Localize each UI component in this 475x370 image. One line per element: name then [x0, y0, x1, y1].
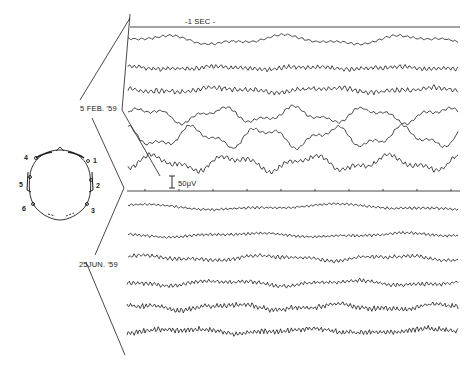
eeg-figure: -1 SEC - 5 FEB. '59 25JUN. '59 50μV 4 1 … [0, 0, 475, 370]
electrode-label-5: 5 [19, 181, 23, 188]
electrode-label-1: 1 [93, 157, 97, 164]
electrode-label-2: 2 [96, 182, 100, 189]
eeg-trace [128, 254, 458, 263]
eeg-trace [128, 153, 458, 174]
eeg-trace [128, 203, 458, 211]
eeg-trace [128, 85, 458, 96]
timing-label: -1 SEC - [185, 17, 215, 26]
date-label-group-1: 5 FEB. '59 [80, 104, 117, 113]
eeg-trace [128, 124, 458, 150]
head-diagram [27, 147, 93, 220]
scale-bar [169, 176, 175, 188]
eeg-trace [128, 34, 458, 45]
eeg-trace [128, 65, 458, 72]
electrode-label-4: 4 [24, 154, 28, 161]
eeg-traces [0, 0, 475, 370]
eeg-trace [127, 325, 458, 336]
eeg-trace [128, 105, 458, 125]
scale-bar-label: 50μV [178, 179, 196, 188]
eeg-trace [127, 302, 458, 313]
eeg-trace [128, 231, 458, 238]
electrode-label-3: 3 [91, 207, 95, 214]
eeg-trace [127, 278, 458, 288]
date-label-group-2: 25JUN. '59 [79, 260, 118, 269]
electrode-label-6: 6 [22, 205, 26, 212]
